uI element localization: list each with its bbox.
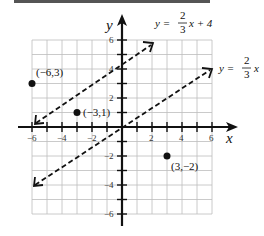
eq1-rhs: x + 4 — [188, 17, 213, 29]
point-neg3-1 — [74, 109, 81, 116]
arrow-head-icon — [202, 68, 212, 78]
tick-x--4: −4 — [57, 133, 67, 143]
tick-x--2: −2 — [87, 133, 97, 143]
tick-y--4: −4 — [104, 180, 114, 190]
point-3-neg2 — [164, 153, 171, 160]
point-label-neg6-3: (−6,3) — [36, 66, 64, 79]
tick-x-6: 6 — [209, 133, 214, 143]
eq2-rhs: x — [253, 62, 259, 74]
y-axis-label: y — [104, 17, 113, 33]
eq1-numerator: 2 — [180, 9, 186, 21]
eq1-lhs: y = — [154, 17, 170, 29]
tick-y--2: −2 — [104, 151, 114, 161]
tick-y--6: −6 — [104, 209, 114, 219]
tick-y-2: 2 — [109, 93, 114, 103]
eq2-denominator: 3 — [244, 68, 250, 80]
eq2-numerator: 2 — [244, 54, 250, 66]
x-axis-label: x — [225, 130, 233, 146]
point-label-neg3-1: (−3,1) — [83, 106, 111, 119]
point-label-3-neg2: (3,−2) — [171, 160, 199, 173]
tick-x-2: 2 — [149, 133, 154, 143]
point-neg6-3 — [29, 80, 36, 87]
arrow-head-icon — [143, 42, 153, 52]
coordinate-plane: −6 −4 −2 2 4 6 6 4 2 −2 −4 −6 x y (−6,3)… — [0, 0, 264, 236]
equation-label-1: y = 2 3 x + 4 — [154, 9, 213, 35]
tick-x--6: −6 — [27, 133, 37, 143]
tick-x-4: 4 — [179, 133, 184, 143]
eq1-denominator: 3 — [180, 23, 186, 35]
equation-label-2: y = 2 3 x — [218, 54, 259, 80]
tick-y-6: 6 — [109, 35, 114, 45]
eq2-lhs: y = — [218, 62, 234, 74]
axes — [18, 22, 232, 226]
